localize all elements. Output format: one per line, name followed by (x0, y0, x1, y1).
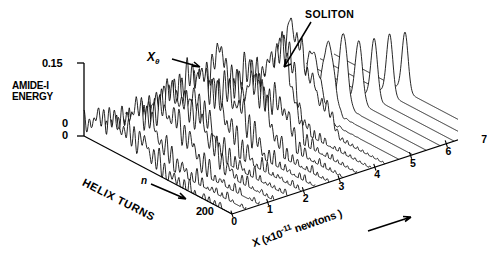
x-axis-tick-label: 0 (231, 215, 237, 227)
xtheta-subscript: θ (155, 57, 159, 66)
y-axis-title: AMIDE-I ENERGY (12, 80, 53, 102)
x-axis-tick-label: 1 (267, 203, 273, 215)
x-axis-tick-label: 6 (446, 145, 452, 157)
y-axis-max-tick-label: 0.15 (42, 57, 62, 69)
depth-axis-max-tick-label: 200 (196, 205, 213, 217)
soliton-annotation-label: SOLITON (305, 8, 354, 20)
y-axis-title-line2: ENERGY (12, 91, 53, 102)
x-axis-tick-label: 7 (481, 133, 487, 145)
origin-tick-label: 0 (62, 129, 68, 141)
xtheta-base: X (147, 50, 155, 64)
x-axis-tick-label: 2 (303, 192, 309, 204)
x-axis-tick-label: 4 (374, 168, 380, 180)
xtheta-annotation-label: Xθ (147, 50, 159, 66)
x-axis-direction-arrow-icon (368, 217, 411, 232)
x-axis-tick-label: 3 (338, 180, 344, 192)
depth-arrow-symbol-label: n (141, 175, 147, 186)
y-axis-min-tick-label: 0 (62, 117, 68, 129)
x-axis-tick-label: 5 (410, 157, 416, 169)
y-axis-title-line1: AMIDE-I (12, 80, 53, 91)
